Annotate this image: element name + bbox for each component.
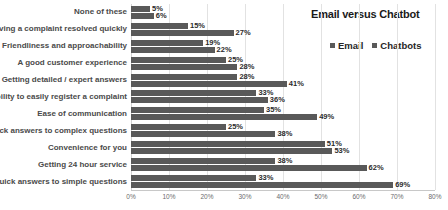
category-label: Having a complaint resolved quickly (0, 24, 127, 34)
bar-value-label: 49% (319, 112, 334, 122)
category-label: Getting 24 hour service (38, 160, 127, 170)
bar-group: 28%41% (131, 72, 435, 89)
bar-value-label: 36% (270, 95, 285, 105)
bar-email[interactable] (131, 57, 226, 63)
bar-value-label: 6% (156, 11, 167, 21)
bar-value-label: 69% (395, 180, 410, 190)
category-label: Getting detailed / expert answers (2, 75, 127, 85)
bar-line: 28% (131, 74, 435, 80)
bar-line: 38% (131, 131, 435, 137)
bar-value-label: 53% (334, 146, 349, 156)
bar-email[interactable] (131, 141, 325, 147)
bar-email[interactable] (131, 175, 256, 181)
bar-chatbots[interactable] (131, 114, 317, 120)
bar-chatbots[interactable] (131, 148, 332, 154)
bar-chatbots[interactable] (131, 97, 268, 103)
bar-group: 19%22% (131, 38, 435, 55)
bar-line: 62% (131, 165, 435, 171)
bar-value-label: 62% (369, 163, 384, 173)
bar-group: 25%28% (131, 55, 435, 72)
bar-value-label: 38% (277, 129, 292, 139)
category-label: Quick answers to complex questions (0, 126, 127, 136)
category-label: Quick answers to simple questions (0, 177, 127, 187)
bar-chatbots[interactable] (131, 47, 215, 53)
x-tick-label: 0% (126, 193, 135, 200)
chart-container: Email versus Chatbot Email Chatbots None… (0, 0, 448, 210)
x-tick-label: 50% (314, 193, 327, 200)
bar-line: 38% (131, 158, 435, 164)
bar-value-label: 27% (236, 28, 251, 38)
bar-chatbots[interactable] (131, 165, 367, 171)
bar-email[interactable] (131, 23, 188, 29)
bar-value-label: 22% (217, 45, 232, 55)
category-label: Ability to easily register a complaint (0, 92, 127, 102)
category-axis-labels: None of theseHaving a complaint resolved… (0, 4, 127, 190)
category-label: None of these (74, 7, 127, 17)
bar-line: 51% (131, 141, 435, 147)
bar-email[interactable] (131, 107, 264, 113)
bar-rows: 5%6%15%27%19%22%25%28%28%41%33%36%35%49%… (131, 4, 435, 190)
bar-email[interactable] (131, 90, 256, 96)
bar-group: 33%69% (131, 173, 435, 190)
bar-group: 33%36% (131, 89, 435, 106)
x-tick-label: 70% (390, 193, 403, 200)
bar-group: 38%62% (131, 156, 435, 173)
category-label: A good customer experience (17, 58, 127, 68)
bar-group: 35%49% (131, 105, 435, 122)
bar-chatbots[interactable] (131, 81, 287, 87)
bar-chatbots[interactable] (131, 182, 393, 188)
bar-email[interactable] (131, 74, 237, 80)
bar-line: 6% (131, 13, 435, 19)
bar-line: 19% (131, 40, 435, 46)
category-label: Convenience for you (48, 143, 127, 153)
x-tick-label: 20% (200, 193, 213, 200)
bar-line: 25% (131, 57, 435, 63)
bar-line: 27% (131, 30, 435, 36)
bar-email[interactable] (131, 40, 203, 46)
bar-chatbots[interactable] (131, 131, 275, 137)
bar-value-label: 41% (289, 79, 304, 89)
bar-group: 25%38% (131, 122, 435, 139)
x-tick-label: 80% (428, 193, 441, 200)
bar-line: 22% (131, 47, 435, 53)
bar-line: 49% (131, 114, 435, 120)
bar-group: 5%6% (131, 4, 435, 21)
gridline-80 (435, 4, 436, 190)
category-label: Friendliness and approachability (2, 41, 127, 51)
bar-line: 28% (131, 64, 435, 70)
bar-email[interactable] (131, 158, 275, 164)
bar-line: 33% (131, 175, 435, 181)
bar-value-label: 28% (239, 62, 254, 72)
bar-email[interactable] (131, 6, 150, 12)
x-tick-label: 40% (276, 193, 289, 200)
bar-line: 15% (131, 23, 435, 29)
bar-group: 51%53% (131, 139, 435, 156)
bar-line: 69% (131, 182, 435, 188)
bar-line: 36% (131, 97, 435, 103)
bar-group: 15%27% (131, 21, 435, 38)
bar-line: 53% (131, 148, 435, 154)
bar-chatbots[interactable] (131, 13, 154, 19)
bar-chatbots[interactable] (131, 30, 234, 36)
x-tick-label: 60% (352, 193, 365, 200)
x-axis-line (131, 190, 435, 191)
bar-chatbots[interactable] (131, 64, 237, 70)
x-axis-ticks: 0%10%20%30%40%50%60%70%80% (131, 193, 435, 205)
x-tick-label: 10% (162, 193, 175, 200)
bar-line: 41% (131, 81, 435, 87)
plot-area: 5%6%15%27%19%22%25%28%28%41%33%36%35%49%… (131, 4, 435, 190)
x-tick-label: 30% (238, 193, 251, 200)
bar-email[interactable] (131, 124, 226, 130)
bar-line: 35% (131, 107, 435, 113)
bar-line: 5% (131, 6, 435, 12)
category-label: Ease of communication (37, 109, 127, 119)
